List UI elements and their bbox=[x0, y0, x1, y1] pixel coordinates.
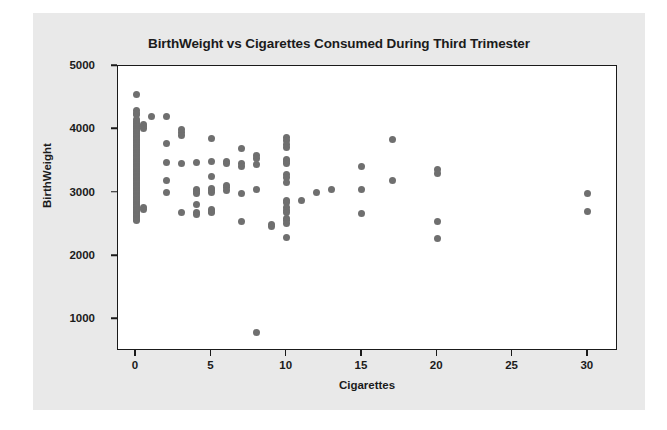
x-tick-mark bbox=[134, 350, 136, 356]
scatter-point bbox=[148, 113, 155, 120]
scatter-point bbox=[434, 170, 441, 177]
scatter-point bbox=[208, 158, 215, 165]
scatter-point bbox=[193, 159, 200, 166]
scatter-point bbox=[358, 163, 365, 170]
x-tick-mark bbox=[511, 350, 513, 356]
scatter-point bbox=[208, 173, 215, 180]
scatter-point bbox=[163, 189, 170, 196]
scatter-point bbox=[283, 179, 290, 186]
scatter-point bbox=[253, 329, 260, 336]
scatter-point bbox=[298, 197, 305, 204]
x-tick-mark bbox=[285, 350, 287, 356]
x-tick-mark bbox=[210, 350, 212, 356]
scatter-point bbox=[163, 159, 170, 166]
scatter-point bbox=[358, 210, 365, 217]
scatter-point bbox=[193, 211, 200, 218]
scatter-point bbox=[133, 217, 140, 224]
x-tick-label: 10 bbox=[266, 359, 306, 371]
scatter-point bbox=[283, 220, 290, 227]
scatter-point bbox=[283, 160, 290, 167]
scatter-point bbox=[178, 132, 185, 139]
scatter-point bbox=[434, 235, 441, 242]
y-tick-label: 1000 bbox=[49, 312, 95, 324]
scatter-point bbox=[358, 186, 365, 193]
scatter-point bbox=[238, 145, 245, 152]
scatter-point bbox=[140, 206, 147, 213]
scatter-point bbox=[178, 160, 185, 167]
scatter-point bbox=[208, 209, 215, 216]
scatter-point bbox=[283, 144, 290, 151]
scatter-point bbox=[283, 234, 290, 241]
scatter-point bbox=[223, 160, 230, 167]
scatter-point bbox=[238, 190, 245, 197]
scatter-point bbox=[163, 113, 170, 120]
scatter-point bbox=[163, 177, 170, 184]
y-tick-label: 3000 bbox=[49, 186, 95, 198]
scatter-point bbox=[140, 125, 147, 132]
scatter-point bbox=[268, 223, 275, 230]
x-tick-mark bbox=[360, 350, 362, 356]
plot-area bbox=[117, 65, 617, 350]
scatter-points-layer bbox=[118, 66, 616, 349]
x-tick-label: 25 bbox=[492, 359, 532, 371]
scatter-point bbox=[163, 140, 170, 147]
scatter-point bbox=[389, 136, 396, 143]
x-tick-label: 0 bbox=[115, 359, 155, 371]
x-axis-title: Cigarettes bbox=[117, 379, 617, 391]
scatter-point bbox=[389, 177, 396, 184]
scatter-point bbox=[178, 209, 185, 216]
x-tick-label: 30 bbox=[567, 359, 607, 371]
y-tick-label: 5000 bbox=[49, 59, 95, 71]
scatter-point bbox=[313, 189, 320, 196]
scatter-point bbox=[238, 163, 245, 170]
scatter-point bbox=[584, 208, 591, 215]
y-tick-label: 4000 bbox=[49, 122, 95, 134]
x-tick-mark bbox=[436, 350, 438, 356]
scatter-point bbox=[133, 91, 140, 98]
scatter-point bbox=[434, 218, 441, 225]
scatter-point bbox=[238, 218, 245, 225]
scatter-point bbox=[253, 186, 260, 193]
chart-title: BirthWeight vs Cigarettes Consumed Durin… bbox=[33, 36, 645, 51]
scatter-point bbox=[193, 201, 200, 208]
scatter-point bbox=[208, 135, 215, 142]
y-axis-ticks: 10002000300040005000 bbox=[33, 13, 117, 410]
x-tick-label: 5 bbox=[190, 359, 230, 371]
x-tick-label: 20 bbox=[416, 359, 456, 371]
chart-figure: BirthWeight vs Cigarettes Consumed Durin… bbox=[33, 13, 645, 410]
scatter-point bbox=[253, 161, 260, 168]
x-tick-label: 15 bbox=[341, 359, 381, 371]
y-tick-label: 2000 bbox=[49, 249, 95, 261]
scatter-point bbox=[208, 189, 215, 196]
scatter-point bbox=[223, 187, 230, 194]
scatter-point bbox=[584, 190, 591, 197]
scatter-point bbox=[328, 186, 335, 193]
scatter-point bbox=[193, 190, 200, 197]
x-axis-ticks: 051015202530 bbox=[117, 350, 617, 372]
x-tick-mark bbox=[586, 350, 588, 356]
